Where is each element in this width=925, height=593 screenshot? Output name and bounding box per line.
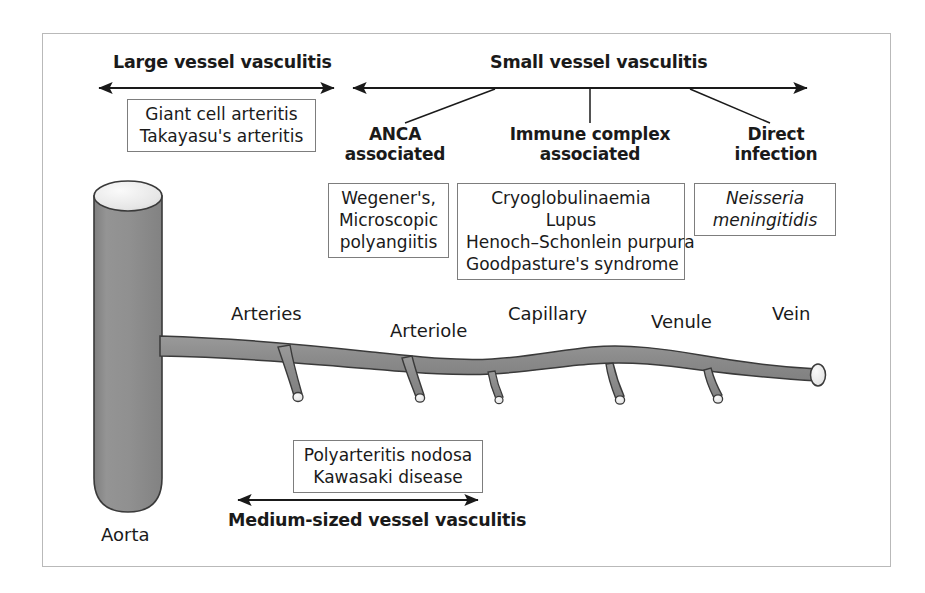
box-large-vessel-item-0: Giant cell arteritis: [136, 103, 307, 125]
large-vessel-header: Large vessel vasculitis: [113, 52, 332, 73]
vessel-label-aorta: Aorta: [101, 524, 150, 545]
category-anca: ANCA associated: [330, 124, 460, 164]
category-direct-infection: Direct infection: [716, 124, 836, 164]
category-immune-complex-line2: associated: [495, 144, 685, 164]
diagram-artwork: [0, 0, 925, 593]
vessel-branch-5-tip: [713, 395, 722, 403]
box-direct-infection-organism: Neisseria meningitidis: [694, 183, 836, 236]
aorta-lumen: [94, 181, 162, 211]
box-medium-vessel-diseases: Polyarteritis nodosa Kawasaki disease: [293, 440, 483, 493]
box-direct-infection-item-0: Neisseria: [703, 187, 827, 209]
vessel-label-venule: Venule: [651, 311, 712, 332]
box-large-vessel-item-1: Takayasu's arteritis: [136, 125, 307, 147]
vessel-branch-3-tip: [495, 396, 503, 403]
vessel-label-arteries: Arteries: [231, 303, 302, 324]
vessel-branch-2-tip: [415, 394, 424, 402]
vessel-branch-4-tip: [615, 396, 624, 404]
category-anca-line2: associated: [330, 144, 460, 164]
category-anca-line1: ANCA: [330, 124, 460, 144]
vessel-label-vein: Vein: [772, 303, 810, 324]
box-direct-infection-item-1: meningitidis: [703, 209, 827, 231]
box-immune-complex-item-0: Cryoglobulinaemia: [466, 187, 676, 209]
box-anca-diseases: Wegener's, Microscopic polyangiitis: [328, 183, 449, 258]
vessel-branch-1-tip: [293, 393, 303, 402]
vessel-label-capillary: Capillary: [508, 303, 587, 324]
category-connector-lines: [405, 89, 770, 123]
category-direct-infection-line1: Direct: [716, 124, 836, 144]
vessel-label-arteriole: Arteriole: [390, 320, 467, 341]
box-immune-complex-diseases: Cryoglobulinaemia Lupus Henoch–Schonlein…: [457, 183, 685, 280]
box-immune-complex-item-2: Henoch–Schonlein purpura: [466, 231, 676, 253]
box-immune-complex-item-3: Goodpasture's syndrome: [466, 253, 676, 275]
box-anca-item-1: Microscopic: [337, 209, 440, 231]
category-immune-complex-line1: Immune complex: [495, 124, 685, 144]
vein-lumen: [811, 364, 826, 386]
small-vessel-header: Small vessel vasculitis: [490, 52, 707, 73]
box-medium-vessel-item-1: Kawasaki disease: [302, 466, 474, 488]
vessel-branch-3: [488, 371, 503, 399]
category-immune-complex: Immune complex associated: [495, 124, 685, 164]
vasculitis-diagram: Large vessel vasculitis Small vessel vas…: [0, 0, 925, 593]
medium-vessel-footer-label: Medium-sized vessel vasculitis: [228, 510, 526, 531]
box-large-vessel-diseases: Giant cell arteritis Takayasu's arteriti…: [127, 99, 316, 152]
category-direct-infection-line2: infection: [716, 144, 836, 164]
vessel-branch-4: [606, 363, 624, 399]
box-immune-complex-item-1: Lupus: [466, 209, 676, 231]
aorta-trunk: [94, 196, 162, 512]
box-anca-item-2: polyangiitis: [337, 231, 440, 253]
box-anca-item-0: Wegener's,: [337, 187, 440, 209]
box-medium-vessel-item-0: Polyarteritis nodosa: [302, 444, 474, 466]
